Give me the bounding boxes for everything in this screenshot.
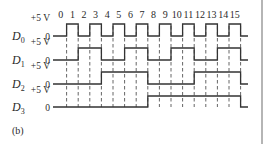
time-label: 13 [207, 9, 217, 20]
time-label: 12 [195, 9, 205, 20]
time-label: 0 [58, 9, 63, 20]
waveform [53, 48, 248, 60]
signal-name: D2 [11, 77, 25, 93]
time-label: 15 [230, 9, 240, 20]
time-label: 7 [140, 9, 145, 20]
time-axis-labels: 0123456789101112131415 [58, 9, 240, 20]
signal-waveforms: +5 V0D0+5 V0D1+5 V0D2+5 V0D3 [11, 13, 248, 116]
signal-name: D1 [11, 53, 25, 69]
signal-row-d3: +5 V0D3 [11, 85, 248, 116]
time-label: 3 [93, 9, 98, 20]
time-label: 4 [105, 9, 110, 20]
time-label: 14 [218, 9, 228, 20]
time-label: 10 [172, 9, 182, 20]
signal-name: D3 [11, 100, 25, 116]
high-level-label: +5 V [31, 37, 50, 47]
waveform [53, 72, 248, 84]
high-level-label: +5 V [31, 13, 50, 23]
time-label: 11 [184, 9, 194, 20]
time-label: 8 [151, 9, 156, 20]
time-label: 1 [70, 9, 75, 20]
high-level-label: +5 V [31, 61, 50, 71]
high-level-label: +5 V [31, 85, 50, 95]
waveform [53, 24, 248, 36]
figure-label: (b) [12, 125, 24, 137]
page-edge-divider [261, 0, 263, 144]
time-label: 6 [128, 9, 133, 20]
time-gridlines [67, 26, 241, 107]
time-label: 9 [163, 9, 168, 20]
time-label: 2 [82, 9, 87, 20]
timing-diagram: 0123456789101112131415 +5 V0D0+5 V0D1+5 … [0, 0, 266, 144]
waveform [53, 96, 248, 107]
signal-name: D0 [11, 29, 25, 45]
low-level-label: 0 [45, 103, 50, 113]
time-label: 5 [116, 9, 121, 20]
